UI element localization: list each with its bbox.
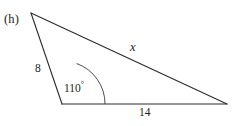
angle-measure-value: 110 — [64, 82, 81, 94]
side-length-label-x: x — [130, 41, 136, 54]
triangle-side-left — [31, 13, 62, 104]
triangle-side-unknown — [31, 13, 227, 104]
part-label: (h) — [4, 13, 19, 26]
side-length-label-8: 8 — [35, 63, 41, 75]
figure-container: (h) 8 14 x 110° — [0, 0, 237, 126]
angle-measure-label: 110° — [64, 80, 84, 94]
degree-symbol-icon: ° — [81, 79, 84, 89]
side-length-label-14: 14 — [139, 107, 151, 119]
